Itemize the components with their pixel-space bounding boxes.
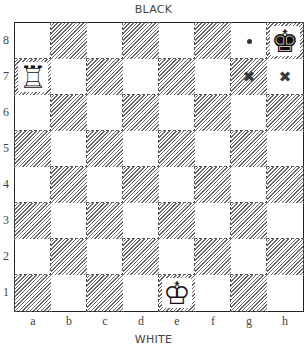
file-label-f: f — [195, 314, 231, 329]
square-b7 — [51, 59, 87, 95]
square-b6 — [51, 95, 87, 131]
rank-label-5: 5 — [3, 141, 13, 156]
square-c4 — [87, 167, 123, 203]
square-b3 — [51, 203, 87, 239]
file-label-g: g — [231, 314, 267, 329]
square-d2 — [123, 239, 159, 275]
rank-label-7: 7 — [3, 69, 13, 84]
square-h8: ♚ — [267, 23, 303, 59]
square-a1 — [15, 275, 51, 311]
square-h3 — [267, 203, 303, 239]
square-f4 — [195, 167, 231, 203]
file-label-h: h — [267, 314, 303, 329]
white-side-label: WHITE — [0, 333, 307, 346]
square-g7: ✖ — [231, 59, 267, 95]
rank-label-8: 8 — [3, 33, 13, 48]
square-a4 — [15, 167, 51, 203]
square-g5 — [231, 131, 267, 167]
black-king-icon: ♚ — [270, 26, 300, 56]
square-f6 — [195, 95, 231, 131]
black-side-label: BLACK — [0, 3, 307, 16]
rank-label-1: 1 — [3, 285, 13, 300]
white-rook-glyph: ♖ — [19, 62, 47, 93]
square-a2 — [15, 239, 51, 275]
white-king-icon: ♔ — [162, 278, 192, 308]
square-g3 — [231, 203, 267, 239]
square-h7: ✖ — [267, 59, 303, 95]
square-a6 — [15, 95, 51, 131]
square-b1 — [51, 275, 87, 311]
square-e1: ♔ — [159, 275, 195, 311]
file-label-a: a — [15, 314, 51, 329]
square-a8 — [15, 23, 51, 59]
square-h2 — [267, 239, 303, 275]
square-f2 — [195, 239, 231, 275]
rank-label-4: 4 — [3, 177, 13, 192]
square-d6 — [123, 95, 159, 131]
file-label-c: c — [87, 314, 123, 329]
square-c7 — [87, 59, 123, 95]
square-f3 — [195, 203, 231, 239]
square-g8 — [231, 23, 267, 59]
square-c5 — [87, 131, 123, 167]
square-g2 — [231, 239, 267, 275]
square-d1 — [123, 275, 159, 311]
file-label-e: e — [159, 314, 195, 329]
square-c8 — [87, 23, 123, 59]
dot-marker-icon — [247, 39, 252, 44]
chess-board: ♚♖✖✖♔ — [14, 22, 304, 312]
square-e8 — [159, 23, 195, 59]
square-a3 — [15, 203, 51, 239]
rank-label-2: 2 — [3, 249, 13, 264]
square-h1 — [267, 275, 303, 311]
white-rook-icon: ♖ — [18, 62, 48, 92]
file-label-d: d — [123, 314, 159, 329]
square-c3 — [87, 203, 123, 239]
square-d7 — [123, 59, 159, 95]
cross-marker-icon: ✖ — [243, 68, 256, 86]
square-h5 — [267, 131, 303, 167]
rank-label-3: 3 — [3, 213, 13, 228]
square-c1 — [87, 275, 123, 311]
square-h4 — [267, 167, 303, 203]
square-f5 — [195, 131, 231, 167]
square-d5 — [123, 131, 159, 167]
cross-marker-icon: ✖ — [279, 68, 292, 86]
square-e5 — [159, 131, 195, 167]
white-king-glyph: ♔ — [163, 278, 191, 309]
square-f7 — [195, 59, 231, 95]
square-d4 — [123, 167, 159, 203]
square-e3 — [159, 203, 195, 239]
square-g4 — [231, 167, 267, 203]
square-b2 — [51, 239, 87, 275]
square-g1 — [231, 275, 267, 311]
square-c6 — [87, 95, 123, 131]
square-e7 — [159, 59, 195, 95]
square-b4 — [51, 167, 87, 203]
square-c2 — [87, 239, 123, 275]
file-label-b: b — [51, 314, 87, 329]
square-e6 — [159, 95, 195, 131]
square-b8 — [51, 23, 87, 59]
square-a7: ♖ — [15, 59, 51, 95]
square-d3 — [123, 203, 159, 239]
square-a5 — [15, 131, 51, 167]
square-g6 — [231, 95, 267, 131]
black-king-glyph: ♚ — [271, 26, 299, 57]
square-f1 — [195, 275, 231, 311]
square-f8 — [195, 23, 231, 59]
square-b5 — [51, 131, 87, 167]
rank-label-6: 6 — [3, 105, 13, 120]
square-h6 — [267, 95, 303, 131]
square-e2 — [159, 239, 195, 275]
square-e4 — [159, 167, 195, 203]
square-d8 — [123, 23, 159, 59]
